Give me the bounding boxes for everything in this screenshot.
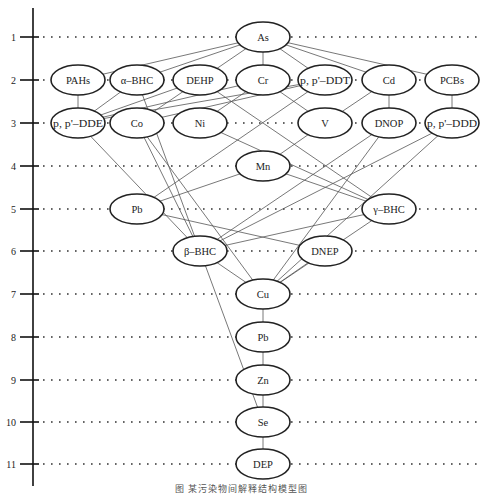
node-label: Co: [131, 118, 143, 129]
node-DNOP: DNOP: [362, 108, 416, 138]
node-Co: Co: [110, 108, 164, 138]
edge-ppDDE-bBHC: [78, 123, 200, 251]
node-Mn: Mn: [236, 151, 290, 181]
node-Cu: Cu: [236, 279, 290, 309]
node-label: Se: [258, 417, 269, 428]
node-label: Pb: [131, 204, 142, 215]
level-label: 10: [6, 417, 16, 428]
edge-ppDDD-bBHC: [200, 123, 452, 251]
edge-As-PCBs: [263, 37, 452, 80]
level-label: 8: [11, 332, 16, 343]
edge-Cr-ppDDE: [78, 80, 263, 123]
node-Pb2: Pb: [236, 322, 290, 352]
edge-gBHC-bBHC: [200, 209, 389, 251]
node-label: Ni: [195, 118, 206, 129]
node-label: Mn: [256, 161, 271, 172]
node-label: PAHs: [66, 75, 90, 86]
node-label: DEP: [253, 459, 273, 470]
node-PAHs: PAHs: [51, 65, 105, 95]
node-ppDDD: p, p'–DDD: [425, 108, 479, 138]
node-label: p, p'–DDE: [53, 118, 103, 129]
node-ppDDT: p, p'–DDT: [298, 65, 352, 95]
node-V: V: [298, 108, 352, 138]
node-label: Pb: [257, 332, 268, 343]
node-Ni: Ni: [173, 108, 227, 138]
figure-caption: 图 某污染物间解释结构模型图: [0, 482, 483, 495]
node-bBHC: β–BHC: [173, 236, 227, 266]
level-label: 4: [11, 161, 16, 172]
node-label: p, p'–DDD: [427, 118, 477, 129]
node-Cr: Cr: [236, 65, 290, 95]
node-label: DEHP: [186, 75, 214, 86]
node-ppDDE: p, p'–DDE: [51, 108, 105, 138]
node-label: Cd: [383, 75, 396, 86]
node-label: γ–BHC: [372, 204, 404, 215]
node-DNEP: DNEP: [298, 236, 352, 266]
level-label: 11: [6, 459, 16, 470]
node-label: Cu: [257, 289, 270, 300]
node-DEP: DEP: [236, 449, 290, 479]
node-label: α–BHC: [121, 75, 153, 86]
edge-ppDDT-Pb1: [137, 80, 325, 209]
node-As: As: [236, 22, 290, 52]
node-DEHP: DEHP: [173, 65, 227, 95]
node-Pb1: Pb: [110, 194, 164, 224]
edge-DNOP-bBHC: [200, 123, 389, 251]
node-label: V: [321, 118, 329, 129]
ism-diagram: 1234567891011 AsPAHsα–BHCDEHPCrp, p'–DDT…: [0, 0, 483, 496]
level-label: 7: [11, 289, 16, 300]
node-label: DNOP: [375, 118, 404, 129]
node-aBHC: α–BHC: [110, 65, 164, 95]
edge-Co-bBHC: [137, 123, 200, 251]
node-label: p, p'–DDT: [300, 75, 351, 86]
node-label: Cr: [258, 75, 269, 86]
node-PCBs: PCBs: [425, 65, 479, 95]
node-label: PCBs: [440, 75, 464, 86]
node-gBHC: γ–BHC: [362, 194, 416, 224]
level-label: 5: [11, 204, 16, 215]
edge-As-PAHs: [78, 37, 263, 80]
node-label: Zn: [257, 375, 269, 386]
level-axis: 1234567891011: [6, 8, 39, 486]
node-Se: Se: [236, 407, 290, 437]
node-label: DNEP: [311, 246, 339, 257]
node-label: As: [257, 32, 269, 43]
level-label: 3: [11, 118, 16, 129]
level-label: 1: [11, 32, 16, 43]
level-label: 9: [11, 375, 16, 386]
level-label: 6: [11, 246, 16, 257]
node-label: β–BHC: [184, 246, 216, 257]
node-Zn: Zn: [236, 365, 290, 395]
node-Cd: Cd: [362, 65, 416, 95]
level-label: 2: [11, 75, 16, 86]
